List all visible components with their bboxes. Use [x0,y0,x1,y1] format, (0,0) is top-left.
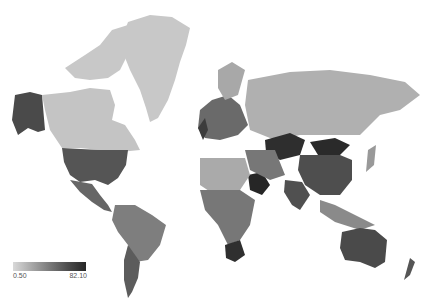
region-scandinavia[interactable] [218,62,245,100]
region-russia[interactable] [245,70,420,140]
region-mexico[interactable] [70,180,112,212]
color-legend: 0.50 82.10 [13,262,87,279]
region-central-africa[interactable] [200,190,255,245]
region-southeast-asia[interactable] [320,200,375,230]
region-canada-arctic[interactable] [65,25,130,80]
legend-gradient-bar [13,262,86,271]
region-brazil[interactable] [112,205,166,262]
legend-max-label: 82.10 [69,272,87,279]
region-usa[interactable] [62,148,128,185]
legend-min-label: 0.50 [13,272,27,279]
region-alaska[interactable] [12,92,45,135]
region-australia[interactable] [340,228,387,268]
region-north-africa[interactable] [200,158,250,195]
region-new-zealand[interactable] [404,258,415,280]
region-japan[interactable] [366,145,376,172]
region-canada[interactable] [42,88,140,152]
region-greenland[interactable] [122,15,190,122]
region-mongolia[interactable] [310,138,350,155]
